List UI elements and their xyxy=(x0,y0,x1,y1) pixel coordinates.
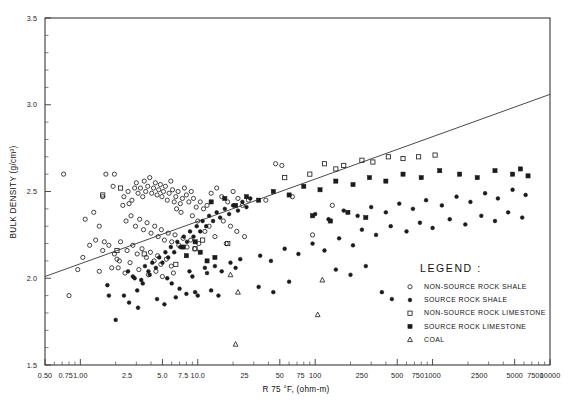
x-tick-label: 50 xyxy=(276,371,284,380)
data-point xyxy=(322,162,326,166)
data-point xyxy=(157,188,161,192)
data-point xyxy=(320,277,325,282)
data-point xyxy=(144,189,148,193)
legend-item[interactable]: SOURCE ROCK SHALE xyxy=(408,296,507,303)
data-point xyxy=(297,252,301,256)
data-point xyxy=(169,245,173,249)
data-point xyxy=(122,195,126,199)
data-point xyxy=(511,188,515,192)
legend-item[interactable]: SOURCE ROCK LIMESTONE xyxy=(408,323,526,330)
y-tick-label: 1.5 xyxy=(27,361,37,370)
data-point xyxy=(165,276,169,280)
data-point xyxy=(170,188,174,192)
legend-item[interactable]: COAL xyxy=(408,336,445,343)
x-tick-label: 2500 xyxy=(471,371,487,380)
legend-item-label: COAL xyxy=(424,336,445,343)
data-point xyxy=(169,264,173,268)
data-point xyxy=(137,267,141,271)
data-point xyxy=(196,294,200,298)
data-point xyxy=(140,247,144,251)
legend-marker-open-circle xyxy=(408,285,412,289)
data-point xyxy=(479,214,483,218)
data-point xyxy=(211,219,215,223)
data-point xyxy=(92,210,96,214)
data-point xyxy=(271,189,275,193)
data-point xyxy=(175,240,179,244)
data-point xyxy=(116,266,120,270)
data-point xyxy=(192,235,196,239)
data-point xyxy=(334,167,338,171)
legend-marker-open-square xyxy=(408,311,412,315)
data-point xyxy=(102,240,106,244)
data-point xyxy=(174,207,178,211)
data-point xyxy=(258,254,262,258)
data-point xyxy=(364,215,368,219)
data-point xyxy=(493,219,497,223)
data-point xyxy=(213,235,217,239)
data-point xyxy=(201,238,205,242)
data-point xyxy=(83,217,87,221)
data-point xyxy=(369,205,373,209)
data-point xyxy=(178,287,182,291)
series-1 xyxy=(61,162,334,298)
data-point xyxy=(187,200,191,204)
data-point xyxy=(418,221,422,225)
data-point xyxy=(330,203,334,207)
data-point xyxy=(411,207,415,211)
data-point xyxy=(264,198,268,202)
data-point xyxy=(151,186,155,190)
data-point xyxy=(455,195,459,199)
data-point xyxy=(184,254,188,258)
data-point xyxy=(475,176,479,180)
data-point xyxy=(356,214,360,218)
data-point xyxy=(231,189,235,193)
data-point xyxy=(118,186,122,190)
data-point xyxy=(236,290,241,295)
data-point xyxy=(126,269,130,273)
data-point xyxy=(205,203,209,207)
legend: LEGEND :NON-SOURCE ROCK SHALESOURCE ROCK… xyxy=(408,262,546,343)
data-point xyxy=(76,267,80,271)
data-point xyxy=(191,196,195,200)
data-point xyxy=(371,160,375,164)
data-point xyxy=(178,202,182,206)
data-point xyxy=(169,179,173,183)
data-point xyxy=(334,268,338,272)
data-point xyxy=(188,269,192,273)
legend-item-label: NON-SOURCE ROCK LIMESTONE xyxy=(424,309,546,316)
x-tick-label: 1000 xyxy=(424,371,440,380)
data-point xyxy=(180,196,184,200)
data-point xyxy=(431,226,435,230)
data-point xyxy=(181,245,185,249)
data-point xyxy=(130,198,134,202)
data-point xyxy=(386,155,390,159)
data-point xyxy=(302,184,306,188)
data-point xyxy=(269,259,273,263)
data-point xyxy=(106,283,110,287)
data-point xyxy=(157,256,161,260)
series-3 xyxy=(101,153,438,267)
series-5 xyxy=(228,272,325,346)
data-point xyxy=(161,261,165,265)
data-point xyxy=(138,186,142,190)
data-point xyxy=(107,294,111,298)
legend-item[interactable]: NON-SOURCE ROCK SHALE xyxy=(408,283,527,290)
data-point xyxy=(155,193,159,197)
data-point xyxy=(155,297,159,301)
legend-item[interactable]: NON-SOURCE ROCK LIMESTONE xyxy=(408,309,546,316)
data-point xyxy=(397,202,401,206)
data-point xyxy=(416,155,420,159)
data-point xyxy=(166,256,170,260)
data-point xyxy=(184,292,188,296)
data-point xyxy=(342,209,346,213)
data-point xyxy=(124,219,128,223)
data-point xyxy=(458,172,462,176)
series-4 xyxy=(181,167,530,263)
data-point xyxy=(405,230,409,234)
legend-item-label: SOURCE ROCK SHALE xyxy=(424,296,507,303)
data-point xyxy=(351,182,355,186)
data-point xyxy=(257,285,261,289)
data-point xyxy=(127,301,131,305)
data-point xyxy=(148,250,152,254)
data-point xyxy=(193,290,197,294)
